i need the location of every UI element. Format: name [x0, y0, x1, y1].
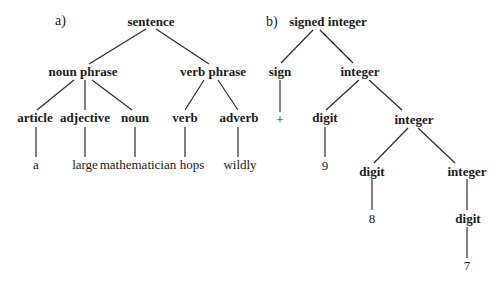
node-verb: verb — [172, 111, 197, 125]
node-signed-integer: signed integer — [289, 15, 367, 29]
node-digit-3: digit — [455, 212, 480, 226]
node-sentence: sentence — [128, 15, 175, 29]
node-noun-phrase: noun phrase — [49, 65, 118, 79]
node-integer-1: integer — [341, 65, 380, 79]
node-noun: noun — [121, 111, 149, 125]
leaf-7: 7 — [464, 259, 471, 273]
node-integer-2: integer — [395, 113, 434, 127]
leaf-a: a — [33, 158, 39, 172]
tree-edges — [0, 0, 497, 284]
node-sign: sign — [269, 65, 291, 79]
panel-label-b: b) — [266, 15, 278, 29]
leaf-8: 8 — [369, 212, 376, 226]
node-adverb: adverb — [220, 111, 259, 125]
leaf-9: 9 — [322, 159, 329, 173]
node-integer-3: integer — [448, 165, 487, 179]
node-adjective: adjective — [60, 111, 110, 125]
leaf-mathematician: mathematician — [100, 158, 177, 172]
leaf-large: large — [72, 158, 98, 172]
node-digit-2: digit — [359, 165, 384, 179]
leaf-hops: hops — [180, 158, 205, 172]
node-article: article — [17, 111, 52, 125]
panel-label-a: a) — [55, 14, 66, 28]
node-verb-phrase: verb phrase — [180, 65, 246, 79]
node-digit-1: digit — [312, 111, 337, 125]
leaf-plus: + — [276, 113, 283, 127]
leaf-wildly: wildly — [223, 158, 256, 172]
